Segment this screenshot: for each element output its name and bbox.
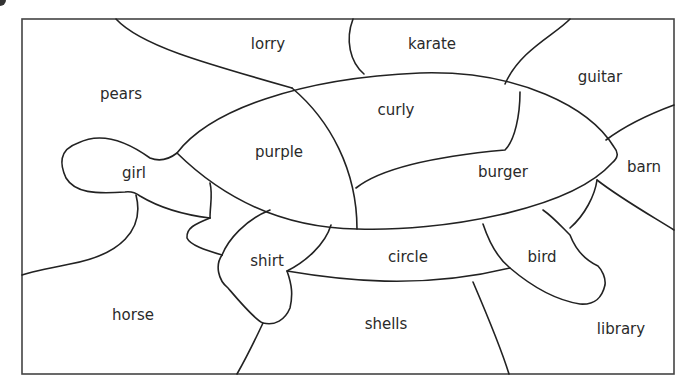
region-label-circle: circle	[388, 250, 428, 265]
plastron-bottom	[287, 268, 510, 281]
region-label-bird: bird	[527, 250, 556, 265]
front-leg-outline	[187, 218, 222, 255]
shell-outline	[177, 73, 617, 229]
region-label-guitar: guitar	[578, 70, 622, 85]
divider-horse-shells	[237, 323, 263, 374]
tail-outline	[570, 180, 597, 228]
front-leg-divider	[222, 210, 270, 255]
region-label-burger: burger	[478, 165, 528, 180]
neck-divider	[210, 183, 211, 218]
colouring-worksheet: lorry karate pears guitar curly purple g…	[0, 0, 690, 388]
region-label-pears: pears	[100, 87, 142, 102]
region-label-curly: curly	[378, 103, 415, 118]
divider-barn-library	[597, 180, 674, 230]
region-label-barn: barn	[627, 160, 661, 175]
divider-lorry-pears	[116, 19, 292, 88]
region-label-lorry: lorry	[251, 37, 285, 52]
divider-karate-guitar	[505, 19, 570, 84]
divider-girl-horse	[22, 195, 138, 275]
divider-guitar-barn	[606, 105, 674, 140]
region-label-purple: purple	[255, 145, 303, 160]
turtle-drawing	[0, 0, 690, 388]
divider-shells-library	[473, 282, 509, 374]
region-label-horse: horse	[112, 308, 154, 323]
region-label-karate: karate	[408, 37, 456, 52]
region-label-library: library	[597, 322, 645, 337]
divider-lorry-karate	[349, 19, 364, 74]
region-label-shells: shells	[365, 317, 408, 332]
region-label-shirt: shirt	[250, 254, 284, 269]
region-label-girl: girl	[122, 166, 146, 181]
